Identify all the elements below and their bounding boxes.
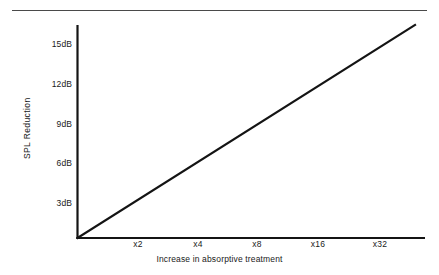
x-tick-label-x2: x2 [133, 240, 143, 249]
chart-figure: 15dB 12dB 9dB 6dB 3dB x2 x4 x8 x16 x32 I… [0, 0, 439, 275]
x-tick-label-x8: x8 [252, 240, 262, 249]
x-tick-label-x32: x32 [373, 240, 388, 249]
x-tick-label-x16: x16 [311, 240, 326, 249]
x-axis-title: Increase in absorptive treatment [0, 255, 439, 264]
x-tick-label-x4: x4 [193, 240, 203, 249]
x-axis-tick-labels: x2 x4 x8 x16 x32 [0, 0, 439, 275]
y-axis-title: SPL Reduction [23, 63, 32, 193]
